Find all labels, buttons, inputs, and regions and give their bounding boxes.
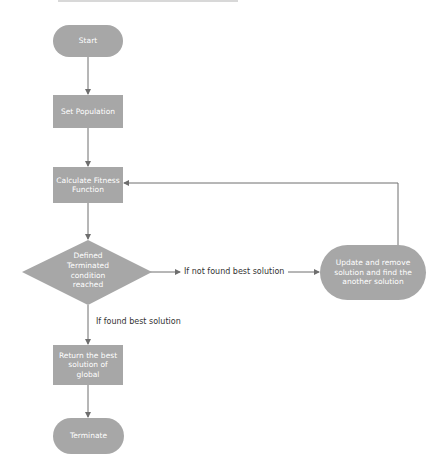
calculate-fitness-node: Calculate Fitness Function: [53, 167, 123, 203]
decision-line-2: Terminated: [55, 261, 121, 271]
connectors: [0, 0, 443, 468]
start-node: Start: [53, 25, 123, 57]
decision-line-3: condition: [55, 271, 121, 281]
update-solution-node: Update and remove solution and find the …: [320, 245, 426, 300]
edge-label-not-found: If not found best solution: [184, 267, 284, 276]
decision-label: Defined Terminated condition reached: [55, 251, 121, 290]
edge-label-found: If found best solution: [96, 317, 181, 326]
decision-line-4: reached: [55, 280, 121, 290]
return-best-node: Return the best solution of global: [53, 345, 123, 385]
update-solution-label: Update and remove solution and find the …: [328, 258, 418, 286]
decision-line-1: Defined: [55, 251, 121, 261]
calculate-fitness-label: Calculate Fitness Function: [56, 176, 120, 195]
start-label: Start: [79, 36, 97, 45]
return-best-label: Return the best solution of global: [56, 351, 120, 379]
terminate-node: Terminate: [53, 418, 124, 454]
set-population-node: Set Population: [53, 95, 123, 128]
terminate-label: Terminate: [70, 431, 107, 440]
set-population-label: Set Population: [61, 107, 115, 116]
